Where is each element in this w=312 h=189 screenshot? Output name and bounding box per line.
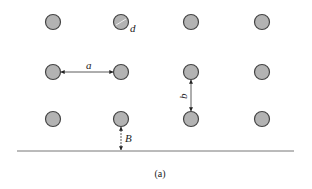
tube: [184, 15, 199, 30]
tube: [46, 65, 61, 80]
tube: [114, 112, 129, 127]
tube: [184, 112, 199, 127]
tube: [46, 15, 61, 30]
diameter-label: d: [130, 22, 136, 34]
tube: [255, 65, 270, 80]
tube: [255, 112, 270, 127]
tube-bank-diagram: d a b B (a): [0, 0, 312, 189]
tube: [184, 65, 199, 80]
tube-grid: [46, 15, 270, 127]
pitch-a-label: a: [86, 59, 92, 71]
tube: [255, 15, 270, 30]
tube: [114, 65, 129, 80]
figure-caption: (a): [154, 168, 165, 180]
pitch-b-label: b: [177, 93, 189, 99]
gap-B-label: B: [125, 132, 132, 144]
tube: [46, 112, 61, 127]
